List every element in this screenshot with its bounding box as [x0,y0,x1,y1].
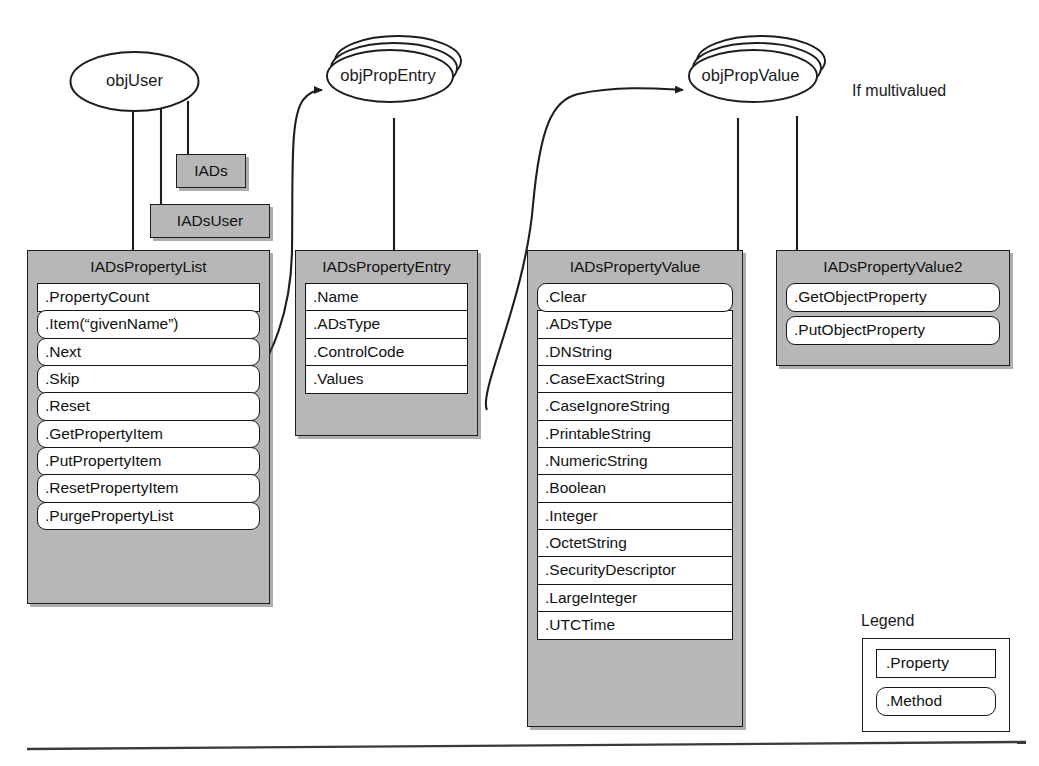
object-objpropvalue[interactable]: objPropValue [681,31,836,121]
member-row[interactable]: .ADsType [305,310,468,339]
member-row[interactable]: .UTCTime [537,611,733,640]
member-row[interactable]: .PutPropertyItem [37,447,260,476]
member-row[interactable]: .Next [37,338,260,367]
legend-item-method: .Method [876,687,996,716]
member-row[interactable]: .Reset [37,392,260,421]
legend-item-property: .Property [876,649,996,678]
panel-iadspropertyvalue[interactable]: IADsPropertyValue .Clear .ADsType .DNStr… [527,250,743,727]
member-row[interactable]: .CaseIgnoreString [537,392,733,421]
member-row[interactable]: .OctetString [537,529,733,558]
member-row[interactable]: .CaseExactString [537,365,733,394]
object-objpropentry[interactable]: objPropEntry [320,31,472,121]
legend-box: .Property .Method [862,638,1010,732]
member-row[interactable]: .Values [305,365,468,394]
member-row[interactable]: .Item(“givenName”) [37,310,260,339]
member-row[interactable]: .GetObjectProperty [786,283,1000,312]
panel-iadspropertyentry-members: .Name .ADsType .ControlCode .Values [296,283,477,403]
panel-iadspropertyentry-title: IADsPropertyEntry [296,251,477,283]
tag-iads-label: IADs [194,163,228,179]
member-row[interactable]: .ResetPropertyItem [37,474,260,503]
member-row[interactable]: .PurgePropertyList [37,502,260,531]
footer-rule [27,742,1026,749]
member-row[interactable]: .ADsType [537,310,733,339]
tag-iads[interactable]: IADs [176,154,246,188]
member-row[interactable]: .ControlCode [305,338,468,367]
member-row[interactable]: .Name [305,283,468,312]
tag-iadsuser-label: IADsUser [177,213,243,229]
member-row[interactable]: .Integer [537,502,733,531]
panel-iadspropertyvalue2-members: .GetObjectProperty .PutObjectProperty [777,283,1009,354]
legend-title: Legend [861,612,914,630]
tag-iadsuser[interactable]: IADsUser [150,204,270,238]
member-row[interactable]: .PropertyCount [37,283,260,312]
member-row[interactable]: .Clear [537,283,733,312]
panel-iadspropertylist-title: IADsPropertyList [28,251,269,283]
panel-iadspropertyvalue-members: .Clear .ADsType .DNString .CaseExactStri… [528,283,742,649]
panel-iadspropertylist-members: .PropertyCount .Item(“givenName”) .Next … [28,283,269,539]
diagram-canvas: objUser objPropEntry objPropValue If mul… [0,0,1039,766]
member-row[interactable]: .LargeInteger [537,584,733,613]
object-objuser[interactable]: objUser [68,50,201,113]
member-row[interactable]: .NumericString [537,447,733,476]
member-row[interactable]: .GetPropertyItem [37,420,260,449]
member-row[interactable]: .SecurityDescriptor [537,556,733,585]
panel-iadspropertyvalue2-title: IADsPropertyValue2 [777,251,1009,283]
panel-iadspropertyvalue-title: IADsPropertyValue [528,251,742,283]
member-row[interactable]: .Skip [37,365,260,394]
panel-iadspropertyvalue2[interactable]: IADsPropertyValue2 .GetObjectProperty .P… [776,250,1010,366]
member-row[interactable]: .Boolean [537,474,733,503]
member-row[interactable]: .PrintableString [537,420,733,449]
panel-iadspropertylist[interactable]: IADsPropertyList .PropertyCount .Item(“g… [27,250,270,604]
member-row[interactable]: .PutObjectProperty [786,316,1000,345]
panel-iadspropertyentry[interactable]: IADsPropertyEntry .Name .ADsType .Contro… [295,250,478,436]
member-row[interactable]: .DNString [537,338,733,367]
annotation-if-multivalued: If multivalued [852,82,946,100]
